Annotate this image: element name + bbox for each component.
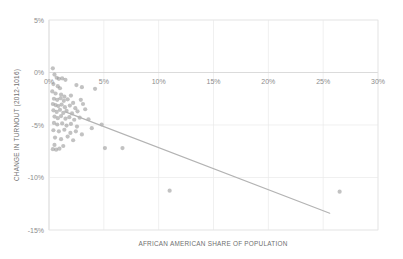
data-point — [51, 66, 55, 70]
data-point — [93, 87, 97, 91]
y-tick-label-4: -15% — [28, 227, 44, 234]
data-point — [68, 131, 72, 135]
data-point — [62, 99, 66, 103]
data-point — [80, 85, 84, 89]
data-point — [72, 118, 76, 122]
data-point — [55, 122, 59, 126]
data-point — [79, 98, 83, 102]
x-axis-title: AFRICAN AMERICAN SHARE OF POPULATION — [138, 240, 287, 247]
data-point — [63, 117, 67, 121]
data-point — [66, 134, 70, 138]
data-point — [63, 105, 67, 109]
data-point — [67, 115, 71, 119]
data-point — [62, 95, 66, 99]
data-point — [71, 101, 75, 105]
y-tick-label-0: 5% — [34, 17, 44, 24]
data-point — [103, 146, 107, 150]
data-point — [53, 91, 57, 95]
y-tick-label-2: -5% — [32, 122, 44, 129]
data-point — [83, 107, 87, 111]
data-point — [81, 102, 85, 106]
y-axis-title: CHANGE IN TURNOUT (2012-1016) — [13, 69, 21, 181]
data-point — [52, 143, 56, 147]
data-point — [120, 146, 124, 150]
data-point — [57, 147, 61, 151]
data-point — [168, 189, 172, 193]
x-tick-label-5: 25% — [316, 78, 330, 85]
chart-canvas: 0%5%10%15%20%25%30% 5%0%-5%-10%-15% AFRI… — [0, 0, 403, 259]
data-point — [62, 128, 66, 132]
data-point — [338, 190, 342, 194]
y-tick-label-3: -10% — [28, 174, 44, 181]
data-point — [51, 128, 55, 132]
x-tick-label-6: 30% — [371, 78, 385, 85]
chart-background — [0, 0, 403, 259]
y-tick-label-1: 0% — [34, 69, 44, 76]
data-point — [74, 83, 78, 87]
data-point — [57, 129, 61, 133]
data-point — [90, 126, 94, 130]
data-point — [58, 96, 62, 100]
data-point — [59, 114, 63, 118]
x-tick-label-4: 20% — [261, 78, 275, 85]
data-point — [75, 109, 79, 113]
data-point — [80, 132, 84, 136]
scatter-chart: 0%5%10%15%20%25%30% 5%0%-5%-10%-15% AFRI… — [0, 0, 403, 259]
data-point — [58, 108, 62, 112]
data-point — [68, 103, 72, 107]
data-point — [59, 137, 63, 141]
data-point — [61, 144, 65, 148]
data-point — [63, 78, 67, 82]
data-point — [66, 97, 70, 101]
data-point — [58, 86, 62, 90]
x-tick-label-1: 5% — [99, 78, 109, 85]
data-point — [71, 138, 75, 142]
x-tick-label-3: 15% — [206, 78, 220, 85]
data-point — [74, 129, 78, 133]
data-point — [69, 94, 73, 98]
data-point — [60, 102, 64, 106]
data-point — [64, 123, 68, 127]
data-point — [53, 136, 57, 140]
x-tick-label-2: 10% — [152, 78, 166, 85]
data-point — [69, 122, 73, 126]
data-point — [60, 121, 64, 125]
x-tick-label-0: 0% — [44, 78, 54, 85]
data-point — [75, 124, 79, 128]
